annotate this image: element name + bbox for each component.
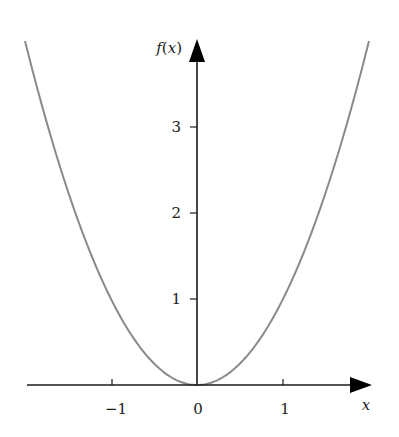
x-axis-label: x (362, 396, 371, 414)
y-axis-label-close: ) (176, 39, 182, 57)
x-axis-arrow-icon (350, 377, 372, 393)
y-axis-label: f(x) (155, 39, 182, 57)
x-tick-label-neg1: −1 (105, 400, 127, 418)
y-tick-label-2: 2 (171, 204, 181, 222)
x-tick-label-0: 0 (193, 400, 203, 418)
y-tick-label-1: 1 (171, 290, 181, 308)
chart-canvas: −1 0 1 1 2 3 x f(x) (0, 0, 399, 437)
x-tick-label-pos1: 1 (280, 400, 290, 418)
y-tick-label-3: 3 (171, 118, 181, 136)
y-axis-arrow-icon (189, 39, 205, 62)
